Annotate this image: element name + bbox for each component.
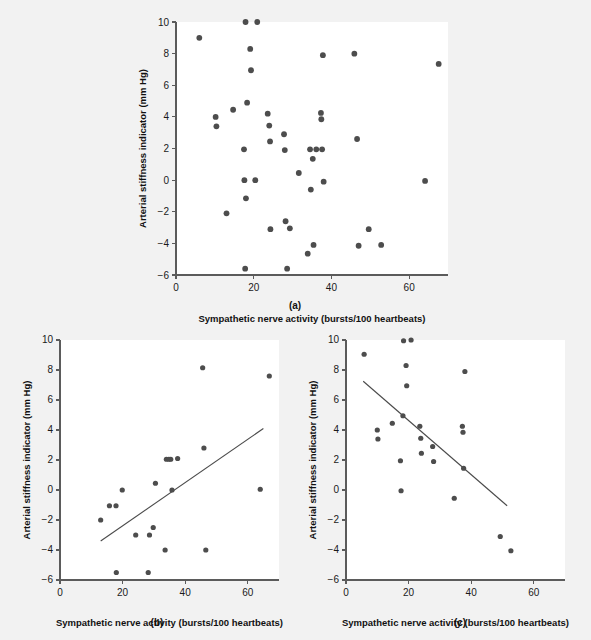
y-axis-tick-label: −6	[328, 574, 340, 585]
panel-b-scatter-plot: −6−4−202468100204060Sympathetic nerve ac…	[14, 328, 299, 618]
data-point	[403, 363, 408, 368]
data-point	[401, 338, 406, 343]
y-axis-tick-label: −2	[42, 514, 54, 525]
data-point	[267, 138, 273, 144]
x-axis-tick-label: 60	[242, 587, 254, 598]
data-point	[508, 548, 513, 553]
data-point	[267, 373, 272, 378]
y-axis-tick-label: 6	[163, 80, 169, 91]
y-axis-tick-label: 4	[333, 424, 339, 435]
x-axis-tick-label: 0	[57, 587, 63, 598]
data-point	[284, 266, 290, 272]
data-point	[120, 487, 125, 492]
data-point	[308, 187, 314, 193]
data-point	[313, 146, 319, 152]
data-point	[283, 218, 289, 224]
y-axis-tick-label: −4	[158, 238, 170, 249]
x-axis-tick-label: 0	[173, 282, 179, 293]
y-axis-tick-label: 0	[163, 175, 169, 186]
data-point	[310, 156, 316, 162]
panel-a-scatter-plot: −6−4−202468100204060Sympathetic nerve ac…	[135, 8, 465, 308]
data-point	[436, 61, 442, 67]
x-axis-title: Sympathetic nerve activity (bursts/100 h…	[198, 313, 425, 324]
data-point	[214, 123, 220, 129]
y-axis-tick-label: 8	[333, 364, 339, 375]
data-point	[113, 503, 118, 508]
y-axis-tick-label: −2	[158, 206, 170, 217]
data-point	[230, 107, 236, 113]
data-point	[153, 481, 158, 486]
data-point	[356, 243, 362, 249]
y-axis-tick-label: 4	[47, 424, 53, 435]
data-point	[318, 110, 324, 116]
data-point	[175, 456, 180, 461]
panel-c-scatter-plot: −6−4−202468100204060Sympathetic nerve ac…	[300, 328, 585, 618]
data-point	[252, 177, 258, 183]
data-point	[266, 123, 272, 129]
data-point	[241, 146, 247, 152]
data-point	[461, 466, 466, 471]
x-axis-tick-label: 0	[343, 587, 349, 598]
data-point	[351, 51, 357, 57]
panel-c-caption: (c)	[440, 617, 480, 628]
data-point	[452, 496, 457, 501]
data-point	[431, 459, 436, 464]
panel-a-caption: (a)	[275, 300, 315, 311]
data-point	[366, 226, 372, 232]
data-point	[362, 352, 367, 357]
data-point	[498, 534, 503, 539]
data-point	[311, 242, 317, 248]
x-axis-tick-label: 40	[326, 282, 338, 293]
y-axis-tick-label: 2	[333, 454, 339, 465]
y-axis-tick-label: −6	[42, 574, 54, 585]
data-point	[169, 487, 174, 492]
data-point	[460, 424, 465, 429]
y-axis-tick-label: 8	[163, 48, 169, 59]
x-axis-tick-label: 60	[404, 282, 416, 293]
x-axis-tick-label: 20	[117, 587, 129, 598]
y-axis-tick-label: −4	[328, 544, 340, 555]
data-point	[282, 147, 288, 153]
data-point	[318, 116, 324, 122]
data-point	[268, 226, 274, 232]
data-point	[242, 266, 248, 272]
data-point	[258, 487, 263, 492]
data-point	[241, 177, 247, 183]
data-point	[408, 337, 413, 342]
data-point	[398, 458, 403, 463]
y-axis-tick-label: 10	[328, 334, 340, 345]
x-axis-tick-label: 40	[180, 587, 192, 598]
data-point	[422, 178, 428, 184]
y-axis-tick-label: 10	[158, 17, 170, 28]
panel-b-svg: −6−4−202468100204060Sympathetic nerve ac…	[14, 328, 299, 618]
data-point	[296, 170, 302, 176]
y-axis-tick-label: 6	[333, 394, 339, 405]
data-point	[398, 488, 403, 493]
data-point	[400, 413, 405, 418]
y-axis-tick-label: −4	[42, 544, 54, 555]
data-point	[146, 570, 151, 575]
panel-b-caption: (b)	[137, 617, 177, 628]
data-point	[114, 570, 119, 575]
data-point	[430, 444, 435, 449]
data-point	[418, 436, 423, 441]
y-axis-tick-label: 6	[47, 394, 53, 405]
data-point	[460, 430, 465, 435]
data-point	[305, 251, 311, 257]
data-point	[200, 365, 205, 370]
data-point	[419, 451, 424, 456]
data-point	[378, 242, 384, 248]
data-point	[417, 424, 422, 429]
data-point	[133, 532, 138, 537]
panel-a-svg: −6−4−202468100204060Sympathetic nerve ac…	[135, 8, 465, 308]
panel-c-svg: −6−4−202468100204060Sympathetic nerve ac…	[300, 328, 585, 618]
y-axis-tick-label: 4	[163, 111, 169, 122]
y-axis-title: Arterial stiffness indicator (mm Hg)	[21, 381, 32, 540]
x-axis-tick-label: 20	[248, 282, 260, 293]
data-point	[254, 19, 260, 25]
data-point	[244, 100, 250, 106]
data-point	[320, 52, 326, 58]
data-point	[265, 111, 271, 117]
data-point	[203, 547, 208, 552]
x-axis-tick-label: 40	[466, 587, 478, 598]
